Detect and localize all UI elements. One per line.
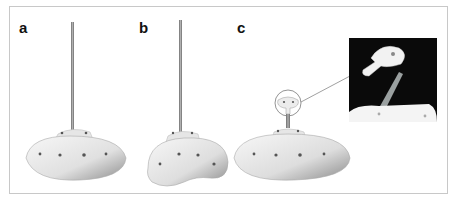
panel-b-device-image bbox=[140, 18, 240, 188]
panel-a-device-image bbox=[20, 18, 135, 188]
panel-c-device-image bbox=[232, 18, 362, 188]
inset-magnified-connector bbox=[349, 38, 437, 122]
